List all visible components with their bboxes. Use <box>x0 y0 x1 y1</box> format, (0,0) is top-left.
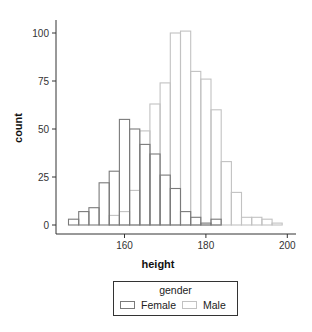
bar-male <box>160 83 170 225</box>
legend-title: gender <box>114 284 237 296</box>
bar-male <box>130 190 140 225</box>
y-tick-label: 75 <box>38 76 50 87</box>
bar-female <box>130 129 140 225</box>
bar-male <box>109 215 119 225</box>
legend-swatch-male <box>182 301 197 309</box>
bar-female <box>119 119 129 225</box>
x-tick-label: 160 <box>116 240 133 251</box>
bar-female <box>211 219 221 225</box>
bar-male <box>201 79 211 225</box>
x-tick-label: 180 <box>198 240 215 251</box>
bar-male <box>272 223 282 225</box>
bar-male <box>231 192 241 225</box>
bar-male <box>262 219 272 225</box>
bar-female <box>140 144 150 225</box>
legend-item-female: Female <box>120 299 176 311</box>
bar-male <box>191 71 201 225</box>
x-tick-label: 200 <box>279 240 296 251</box>
bar-male <box>221 162 231 225</box>
bar-female <box>201 223 211 225</box>
bar-male <box>181 31 191 225</box>
bars-layer <box>69 31 283 225</box>
bar-female <box>191 217 201 225</box>
bar-male <box>150 104 160 225</box>
bar-male <box>252 217 262 225</box>
bar-female <box>150 154 160 225</box>
y-tick-label: 100 <box>32 28 49 39</box>
x-axis-title: height <box>142 258 175 270</box>
bar-female <box>109 171 119 225</box>
legend-item-male: Male <box>182 299 226 311</box>
bar-female <box>181 212 191 225</box>
bar-male <box>242 217 252 225</box>
y-tick-label: 25 <box>38 172 50 183</box>
bar-male <box>119 212 129 225</box>
bar-female <box>170 189 180 226</box>
y-axis-title: count <box>12 113 24 143</box>
bar-female <box>69 219 79 225</box>
y-tick-label: 50 <box>38 124 50 135</box>
legend-swatch-female <box>120 301 135 309</box>
legend-label-female: Female <box>141 299 176 311</box>
bar-male <box>170 33 180 225</box>
bar-female <box>160 175 170 225</box>
bar-male <box>211 110 221 225</box>
y-tick-label: 0 <box>43 220 49 231</box>
bar-female <box>79 212 89 225</box>
bar-male <box>140 131 150 225</box>
y-axis-ticks: 0255075100 <box>32 28 56 231</box>
bar-female <box>99 183 109 225</box>
x-axis-ticks: 160180200 <box>116 234 296 251</box>
bar-female <box>89 208 99 225</box>
legend: gender Female Male <box>113 281 238 316</box>
legend-label-male: Male <box>203 299 226 311</box>
